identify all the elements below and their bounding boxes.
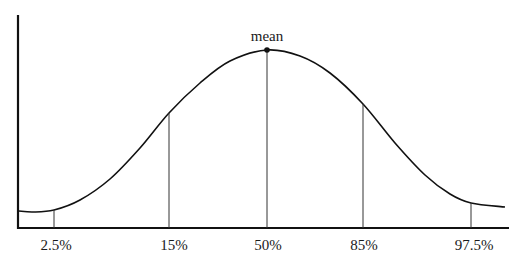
mean-label: mean <box>251 28 284 44</box>
bell-curve-chart: mean 2.5% 15% 50% 85% 97.5% <box>0 0 521 263</box>
tick-label-50: 50% <box>254 237 282 253</box>
tick-label-97-5: 97.5% <box>455 237 494 253</box>
tick-label-85: 85% <box>350 237 378 253</box>
density-curve <box>19 50 505 212</box>
tick-label-15: 15% <box>160 237 188 253</box>
mean-point <box>264 47 270 53</box>
tick-label-2-5: 2.5% <box>40 237 71 253</box>
percentile-lines <box>54 50 471 228</box>
